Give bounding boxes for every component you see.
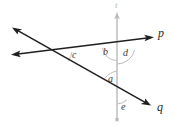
line-q [12,27,151,105]
label-angle-a: a [108,74,113,84]
line-q-arrowhead-downright [141,99,151,106]
label-line-q: q [157,101,163,113]
label-angle-e: e [121,102,125,112]
label-angle-d: d [123,48,128,58]
figure-canvas [0,0,173,127]
label-line-p: p [158,27,164,39]
line-t [114,12,120,121]
label-angle-b: b [103,47,108,57]
geometry-figure: p q t c b d a e [0,0,173,127]
label-angle-c: c [72,50,76,60]
line-q-arrowhead-upleft [12,27,22,34]
line-t-endcap [115,118,118,121]
label-line-t: t [115,1,118,10]
